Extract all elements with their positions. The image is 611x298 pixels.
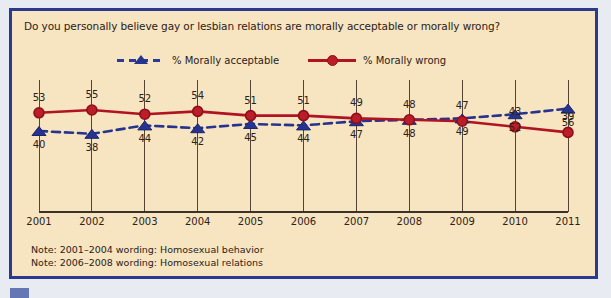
x-tick-2008: 2008 <box>397 216 422 227</box>
value-label-acceptable-2009: 49 <box>456 126 469 137</box>
chart-page: { "chart_data": { "type": "line", "title… <box>0 0 611 298</box>
x-tick-2002: 2002 <box>79 216 104 227</box>
value-label-wrong-2011: 39 <box>562 111 575 122</box>
value-label-wrong-2005: 51 <box>244 95 257 106</box>
value-label-wrong-2006: 51 <box>297 95 310 106</box>
value-label-acceptable-2002: 38 <box>86 142 99 153</box>
value-label-wrong-2004: 54 <box>191 90 204 101</box>
value-label-acceptable-2001: 40 <box>33 139 46 150</box>
legend-swatch-wrong <box>308 52 356 68</box>
x-tick-2007: 2007 <box>344 216 369 227</box>
chart-notes: Note: 2001–2004 wording: Homosexual beha… <box>31 243 264 269</box>
x-tick-2011: 2011 <box>555 216 580 227</box>
value-label-acceptable-2006: 44 <box>297 133 310 144</box>
x-tick-2005: 2005 <box>238 216 263 227</box>
chart-title: Do you personally believe gay or lesbian… <box>24 20 500 32</box>
value-label-acceptable-2008: 48 <box>403 128 416 139</box>
value-label-wrong-2007: 49 <box>350 97 363 108</box>
legend-item-morally-acceptable[interactable]: % Morally acceptable <box>117 49 279 71</box>
x-tick-2003: 2003 <box>132 216 157 227</box>
note-line-1: Note: 2001–2004 wording: Homosexual beha… <box>31 243 264 256</box>
value-label-acceptable-2010: 52 <box>509 122 522 133</box>
corner-tag <box>10 288 29 298</box>
legend-item-morally-wrong[interactable]: % Morally wrong <box>308 49 446 71</box>
value-label-acceptable-2004: 42 <box>191 136 204 147</box>
value-label-acceptable-2007: 47 <box>350 129 363 140</box>
circle-marker-icon <box>327 55 338 66</box>
x-tick-2001: 2001 <box>26 216 51 227</box>
value-label-wrong-2002: 55 <box>86 89 99 100</box>
value-label-wrong-2003: 52 <box>138 93 151 104</box>
x-tick-2010: 2010 <box>502 216 527 227</box>
legend-label-wrong: % Morally wrong <box>363 55 446 66</box>
note-line-2: Note: 2006–2008 wording: Homosexual rela… <box>31 256 264 269</box>
legend-swatch-acceptable <box>117 52 165 68</box>
value-label-acceptable-2005: 45 <box>244 132 257 143</box>
legend-label-acceptable: % Morally acceptable <box>172 55 279 66</box>
value-label-wrong-2008: 48 <box>403 99 416 110</box>
chart-legend: % Morally acceptable % Morally wrong <box>0 49 611 71</box>
value-label-wrong-2001: 53 <box>33 92 46 103</box>
x-tick-2006: 2006 <box>291 216 316 227</box>
x-tick-2004: 2004 <box>185 216 210 227</box>
value-label-wrong-2010: 43 <box>509 106 522 117</box>
value-label-acceptable-2003: 44 <box>138 133 151 144</box>
x-tick-2009: 2009 <box>449 216 474 227</box>
triangle-marker-icon <box>134 55 148 64</box>
value-label-wrong-2009: 47 <box>456 100 469 111</box>
